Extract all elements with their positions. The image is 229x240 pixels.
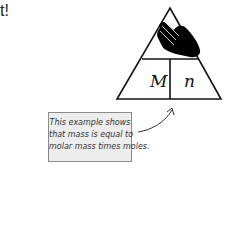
annotation-line: molar mass times moles. [49,141,131,153]
molar-mass-symbol: M [149,71,168,91]
moles-symbol: n [184,71,195,91]
annotation-line: that mass is equal to [49,129,131,141]
annotation-box: This example shows that mass is equal to… [48,112,132,162]
annotation-line: This example shows [49,117,131,129]
